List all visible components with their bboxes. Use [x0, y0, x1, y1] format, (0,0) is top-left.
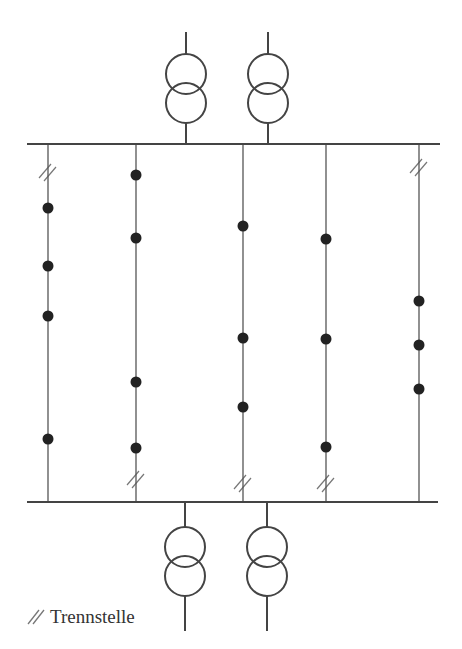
legend-label: Trennstelle [50, 606, 135, 628]
break-point-icon [410, 158, 427, 176]
node-dot [414, 384, 425, 395]
break-point-icon [234, 474, 251, 492]
legend: Trennstelle [26, 606, 135, 628]
node-dot [321, 234, 332, 245]
node-dot [238, 402, 249, 413]
busbars [27, 144, 440, 502]
node-dot [414, 340, 425, 351]
node-dot [43, 203, 54, 214]
feeder-3 [234, 144, 251, 502]
node-dot [131, 170, 142, 181]
node-dot [43, 261, 54, 272]
transformer-icon [248, 32, 288, 144]
break-point-icon [39, 163, 56, 181]
node-dot [321, 334, 332, 345]
break-point-icon [127, 470, 144, 488]
transformer-icon [165, 502, 205, 631]
feeder-5 [410, 144, 427, 502]
node-dot [131, 377, 142, 388]
feeders [39, 144, 427, 502]
node-dot [43, 311, 54, 322]
node-dot [238, 333, 249, 344]
node-dot [238, 221, 249, 232]
node-dot [321, 442, 332, 453]
node-dot [131, 233, 142, 244]
transformer-icon [166, 32, 206, 144]
break-point-icon [317, 474, 334, 492]
break-point-icon [26, 607, 48, 627]
transformer-icon [247, 502, 287, 631]
node-dot [131, 443, 142, 454]
transformers [165, 32, 288, 631]
node-dot [414, 296, 425, 307]
feeder-4 [317, 144, 334, 502]
feeder-1 [39, 144, 56, 502]
network-diagram [0, 0, 462, 649]
feeder-2 [127, 144, 144, 502]
node-dot [43, 434, 54, 445]
